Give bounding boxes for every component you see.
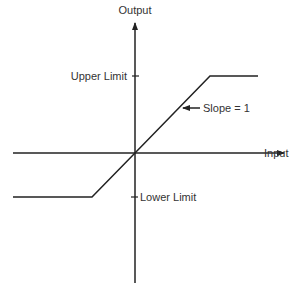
x-axis-label: Input	[264, 147, 288, 159]
lower-limit-label: Lower Limit	[140, 191, 196, 203]
y-axis-label: Output	[118, 4, 151, 16]
diagram-svg: Output Input Upper Limit Lower Limit Slo…	[0, 0, 295, 298]
upper-limit-label: Upper Limit	[71, 70, 127, 82]
slope-label: Slope = 1	[203, 102, 250, 114]
saturation-diagram: Output Input Upper Limit Lower Limit Slo…	[0, 0, 295, 298]
